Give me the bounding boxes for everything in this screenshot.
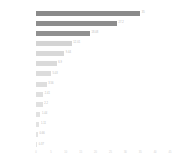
bar-value-label: 1.44 [42, 113, 47, 116]
bar-value-label: 18.08 [91, 32, 98, 35]
bar-row[interactable]: 1.44 [36, 109, 170, 119]
x-tick-label: 30 [124, 152, 127, 155]
bar-row[interactable]: 0.37 [36, 140, 170, 150]
x-tick-label: 10 [64, 152, 67, 155]
bar-value-label: 27.2 [119, 22, 124, 25]
bar[interactable] [36, 61, 57, 66]
bar[interactable] [36, 71, 51, 76]
bar[interactable] [36, 21, 117, 26]
x-tick-label: 0 [35, 152, 36, 155]
bar-row[interactable]: 35 [36, 8, 170, 18]
bar-value-label: 2.2 [44, 103, 48, 106]
bar-value-label: 0.37 [39, 144, 44, 147]
bar-row[interactable]: 5.03 [36, 69, 170, 79]
bar-row[interactable]: 2.41 [36, 89, 170, 99]
bar-value-label: 35 [142, 12, 145, 15]
bar-row[interactable]: 3.56 [36, 79, 170, 89]
bar-row[interactable]: 18.08 [36, 28, 170, 38]
bar-row[interactable]: 1.11 [36, 120, 170, 130]
bar[interactable] [36, 122, 39, 127]
bar-row[interactable]: 12.01 [36, 38, 170, 48]
bar-chart: 3527.218.0812.019.446.95.033.562.412.21.… [0, 0, 176, 165]
bar-value-label: 5.03 [53, 73, 58, 76]
x-axis-tick-labels: 051015202530354045 [36, 152, 170, 162]
bar-row[interactable]: 27.2 [36, 18, 170, 28]
x-tick-label: 25 [109, 152, 112, 155]
x-tick-label: 20 [94, 152, 97, 155]
bar[interactable] [36, 102, 43, 107]
bar-value-label: 12.01 [73, 42, 80, 45]
bar[interactable] [36, 11, 140, 16]
bar-value-label: 6.9 [58, 62, 62, 65]
bar-value-label: 9.44 [66, 52, 71, 55]
bar-row[interactable]: 0.66 [36, 130, 170, 140]
bar-row[interactable]: 6.9 [36, 59, 170, 69]
bar[interactable] [36, 51, 64, 56]
bar-value-label: 3.56 [48, 83, 53, 86]
bar[interactable] [36, 82, 47, 87]
x-tick-label: 45 [169, 152, 172, 155]
bar-row[interactable]: 2.2 [36, 99, 170, 109]
x-tick-label: 15 [79, 152, 82, 155]
bar[interactable] [36, 92, 43, 97]
x-axis: 051015202530354045 [36, 152, 170, 162]
bar-row[interactable]: 9.44 [36, 49, 170, 59]
x-tick-label: 40 [154, 152, 157, 155]
bar[interactable] [36, 41, 72, 46]
bar[interactable] [36, 31, 90, 36]
bar-value-label: 0.66 [40, 133, 45, 136]
plot-area: 3527.218.0812.019.446.95.033.562.412.21.… [36, 8, 170, 150]
bar[interactable] [36, 112, 40, 117]
x-tick-label: 35 [139, 152, 142, 155]
bar[interactable] [36, 132, 38, 137]
bar-value-label: 2.41 [45, 93, 50, 96]
bar[interactable] [36, 142, 37, 147]
bar-value-label: 1.11 [41, 123, 46, 126]
x-tick-label: 5 [50, 152, 51, 155]
